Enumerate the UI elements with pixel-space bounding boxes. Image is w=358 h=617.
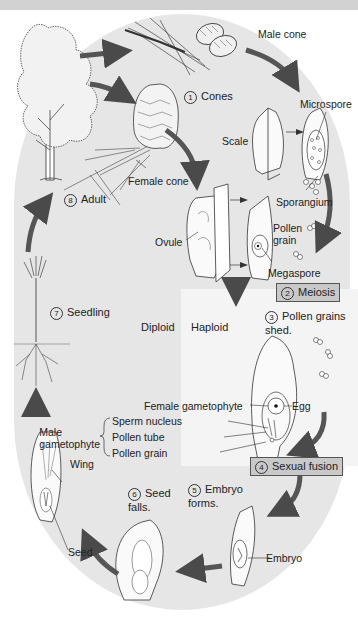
label-wing: Wing xyxy=(70,458,94,470)
step-1-cones: 1Cones xyxy=(184,90,233,104)
label-diploid: Diploid xyxy=(141,321,175,333)
label-haploid: Haploid xyxy=(191,321,228,333)
seed-scale-icon xyxy=(116,520,163,600)
label-microspore: Microspore xyxy=(300,98,352,110)
step-number: 7 xyxy=(50,307,63,320)
step-number: 3 xyxy=(265,311,278,324)
label-female-cone: Female cone xyxy=(128,175,189,187)
label-male-cone: Male cone xyxy=(258,28,306,40)
step-number: 2 xyxy=(281,287,294,300)
step-7-seedling: 7Seedling xyxy=(50,306,110,320)
step-3-pollen-shed: 3Pollen grains shed. xyxy=(265,310,346,337)
shed-pollen-icon xyxy=(314,338,333,379)
step-5-embryo-forms: 5Embryo forms. xyxy=(188,483,243,510)
step-8-adult: 8Adult xyxy=(64,193,106,207)
step-number: 5 xyxy=(188,484,201,497)
step-6-seed-falls: 6Seed falls. xyxy=(128,487,171,514)
label-female-gametophyte: Female gametophyte xyxy=(144,400,243,412)
fertilization-ovule-icon xyxy=(252,336,297,466)
step-number: 6 xyxy=(128,488,141,501)
step-2-meiosis: 2Meiosis xyxy=(276,283,340,302)
male-cone-icon xyxy=(125,18,240,75)
label-megaspore: Megaspore xyxy=(268,267,321,279)
scale-icon xyxy=(253,108,284,180)
label-male-gametophyte: Male gametophyte xyxy=(39,426,100,450)
label-egg: Egg xyxy=(292,400,311,412)
label-pollen-grain: Pollen grain xyxy=(112,447,167,459)
embryo-seed-icon xyxy=(230,506,254,586)
step-number: 8 xyxy=(64,194,77,207)
sporangium-icon xyxy=(286,108,328,195)
step-4-sexual-fusion: 4Sexual fusion xyxy=(250,457,343,476)
label-seed: Seed xyxy=(68,546,93,558)
brace-icon xyxy=(100,418,110,456)
label-pollen-tube: Pollen tube xyxy=(112,431,165,443)
adult-tree-icon xyxy=(18,24,98,180)
label-sperm-nucleus: Sperm nucleus xyxy=(112,415,182,427)
label-ovule: Ovule xyxy=(155,236,182,248)
step-number: 4 xyxy=(255,461,268,474)
ovule-icon xyxy=(187,184,244,282)
seedling-icon xyxy=(14,256,70,386)
step-number: 1 xyxy=(184,91,197,104)
label-scale: Scale xyxy=(222,135,248,147)
label-pollen-grain-top: Pollen grain xyxy=(273,222,302,246)
label-sporangium: Sporangium xyxy=(276,196,333,208)
label-embryo: Embryo xyxy=(266,552,302,564)
